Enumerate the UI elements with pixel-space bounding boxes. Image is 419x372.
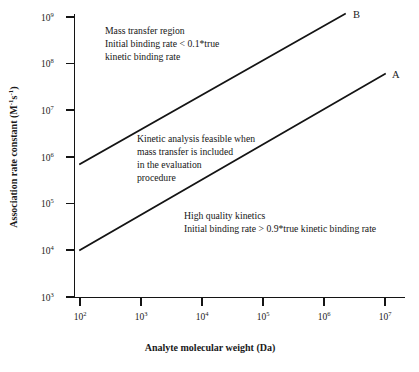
- annotation-mass-transfer-region: Mass transfer region Initial binding rat…: [105, 25, 219, 62]
- annotation-kinetic-line-1: Kinetic analysis feasible when: [137, 133, 255, 144]
- y-tick-label-1e8-exp: 8: [51, 57, 54, 64]
- x-tick-label-1e5-base: 10: [257, 312, 267, 322]
- x-tick-label-1e2-exp: 2: [83, 310, 86, 317]
- x-tick-label-1e2: 102: [74, 310, 87, 322]
- y-tick-label-1e7: 107: [41, 104, 55, 116]
- y-tick-label-1e5-exp: 5: [51, 197, 54, 204]
- x-tick-label-1e4-exp: 4: [205, 310, 209, 317]
- x-tick-label-1e7-base: 10: [379, 312, 389, 322]
- y-tick-label-1e3: 103: [41, 291, 54, 303]
- y-tick-label-1e6-exp: 6: [51, 151, 55, 158]
- y-tick-label-1e4-exp: 4: [51, 244, 55, 251]
- annotation-mass-transfer-line-1: Mass transfer region: [105, 25, 185, 36]
- y-tick-label-1e7-base: 10: [41, 106, 51, 116]
- y-tick-label-1e4: 104: [41, 244, 55, 256]
- x-tick-label-1e3: 103: [135, 310, 148, 322]
- annotation-mass-transfer-line-3: kinetic binding rate: [105, 51, 180, 62]
- y-tick-label-group: 109 108 107 106 105 104 103: [41, 11, 55, 303]
- y-tick-label-1e4-base: 10: [41, 246, 51, 256]
- annotation-high-quality-line-2: Initial binding rate > 0.9*true kinetic …: [184, 223, 376, 234]
- y-tick-label-1e3-exp: 3: [51, 291, 54, 298]
- annotation-kinetic-analysis-feasible: Kinetic analysis feasible when mass tran…: [137, 133, 255, 183]
- x-tick-label-group: 102 103 104 105 106 107: [74, 310, 393, 322]
- y-tick-label-1e8: 108: [41, 57, 54, 69]
- y-axis-title: Association rate constant (M-1s-1): [7, 86, 20, 227]
- y-tick-label-1e5-base: 10: [41, 199, 51, 209]
- x-tick-label-1e6-base: 10: [318, 312, 328, 322]
- y-tick-label-1e6-base: 10: [41, 153, 51, 163]
- series-label-b: B: [353, 9, 360, 20]
- x-tick-label-1e4-base: 10: [196, 312, 206, 322]
- y-tick-group: [66, 17, 75, 297]
- x-tick-label-1e3-base: 10: [135, 312, 145, 322]
- x-tick-label-1e5: 105: [257, 310, 270, 322]
- y-axis-title-main: Association rate constant (M: [8, 105, 20, 228]
- x-tick-label-1e5-exp: 5: [266, 310, 269, 317]
- association-rate-vs-molecular-weight-chart: 109 108 107 106 105 104 103: [0, 0, 419, 372]
- x-tick-label-1e6-exp: 6: [327, 310, 331, 317]
- x-tick-label-1e6: 106: [318, 310, 332, 322]
- y-tick-label-1e9: 109: [41, 11, 54, 23]
- y-tick-label-1e9-exp: 9: [51, 11, 54, 18]
- series-label-a: A: [392, 69, 400, 80]
- x-tick-label-1e4: 104: [196, 310, 210, 322]
- y-tick-label-1e7-exp: 7: [51, 104, 55, 111]
- x-tick-label-1e3-exp: 3: [144, 310, 147, 317]
- x-tick-label-1e7-exp: 7: [388, 310, 392, 317]
- x-axis-title: Analyte molecular weight (Da): [145, 342, 276, 354]
- y-tick-label-1e6: 106: [41, 151, 55, 163]
- annotation-kinetic-line-2: mass transfer is included: [137, 146, 233, 157]
- annotation-high-quality-kinetics: High quality kinetics Initial binding ra…: [184, 210, 376, 234]
- annotation-mass-transfer-line-2: Initial binding rate < 0.1*true: [105, 38, 219, 49]
- y-tick-label-1e8-base: 10: [41, 59, 51, 69]
- annotation-high-quality-line-1: High quality kinetics: [184, 210, 265, 221]
- y-tick-label-1e9-base: 10: [41, 13, 51, 23]
- chart-page: 109 108 107 106 105 104 103: [0, 0, 419, 372]
- y-tick-label-1e3-base: 10: [41, 293, 51, 303]
- x-tick-label-1e2-base: 10: [74, 312, 84, 322]
- x-tick-label-1e7: 107: [379, 310, 393, 322]
- y-tick-label-1e5: 105: [41, 197, 54, 209]
- x-tick-group: [80, 298, 385, 307]
- y-axis-title-close: ): [8, 86, 20, 89]
- annotation-kinetic-line-3: in the evaluation: [137, 159, 202, 170]
- annotation-kinetic-line-4: procedure: [137, 172, 176, 183]
